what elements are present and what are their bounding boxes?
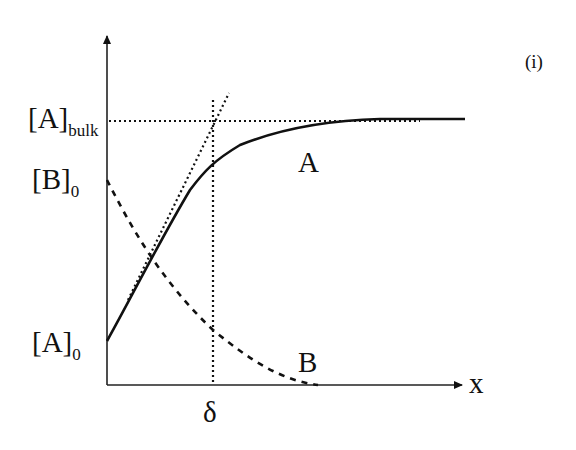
a-bulk-sub: bulk [68, 121, 98, 140]
b0-main: [B] [32, 163, 71, 195]
a-bulk-main: [A] [28, 102, 68, 134]
curve-b-label: B [298, 348, 317, 377]
b0-sub: 0 [71, 182, 80, 201]
a0-sub: 0 [72, 345, 81, 364]
x-axis-label: x [469, 369, 484, 398]
a0-main: [A] [32, 326, 72, 358]
curve-a [107, 119, 465, 341]
diagram-canvas [0, 0, 576, 450]
a-bulk-label: [A]bulk [28, 104, 99, 133]
b0-label: [B]0 [32, 165, 79, 194]
curve-a-label: A [298, 148, 319, 177]
a0-label: [A]0 [32, 328, 81, 357]
panel-label: (i) [525, 52, 543, 71]
delta-label: δ [203, 398, 217, 427]
